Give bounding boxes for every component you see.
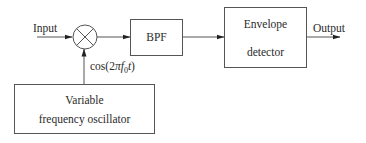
- input-label: Input: [33, 23, 57, 35]
- multiplier-icon: [73, 25, 97, 49]
- signal-suffix: ): [131, 60, 135, 72]
- bpf-block: BPF: [130, 19, 183, 56]
- envelope-label-line1: Envelope: [225, 19, 306, 31]
- oscillator-label-line2: frequency oscillator: [15, 114, 154, 126]
- output-label: Output: [313, 23, 345, 35]
- envelope-detector-block: Envelope detector: [224, 7, 307, 68]
- oscillator-signal-label: cos(2πf0t): [90, 61, 135, 75]
- oscillator-block: Variable frequency oscillator: [14, 84, 155, 134]
- block-diagram: Input Output cos(2πf0t) BPF Envelope det…: [0, 0, 366, 143]
- envelope-label-line2: detector: [225, 47, 306, 59]
- oscillator-label-line1: Variable: [15, 95, 154, 107]
- signal-prefix: cos(2: [90, 60, 115, 72]
- bpf-label: BPF: [131, 32, 182, 44]
